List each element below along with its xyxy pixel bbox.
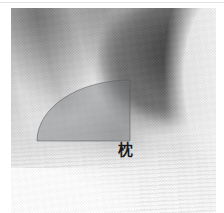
- anatomical-label-makura: 枕: [118, 142, 133, 158]
- top-rule-divider: [0, 2, 224, 3]
- photo-film-grain-layer: [11, 8, 216, 213]
- figure-canvas: 枕: [0, 0, 224, 213]
- anatomical-photograph: [11, 8, 216, 213]
